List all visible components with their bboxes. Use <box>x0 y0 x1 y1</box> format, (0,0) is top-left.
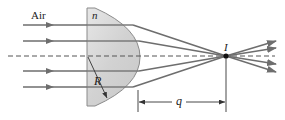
air-label: Air <box>31 9 46 21</box>
image-point-dot <box>223 53 228 58</box>
hemispherical-lens <box>87 8 140 106</box>
distance-q-label: q <box>176 94 182 108</box>
radius-R-label: R <box>93 74 102 88</box>
diagram-canvas: Air n R I q <box>0 0 285 120</box>
index-n-label: n <box>92 9 98 21</box>
lens-ray-diagram: Air n R I q <box>0 0 285 120</box>
image-I-label: I <box>223 41 229 53</box>
